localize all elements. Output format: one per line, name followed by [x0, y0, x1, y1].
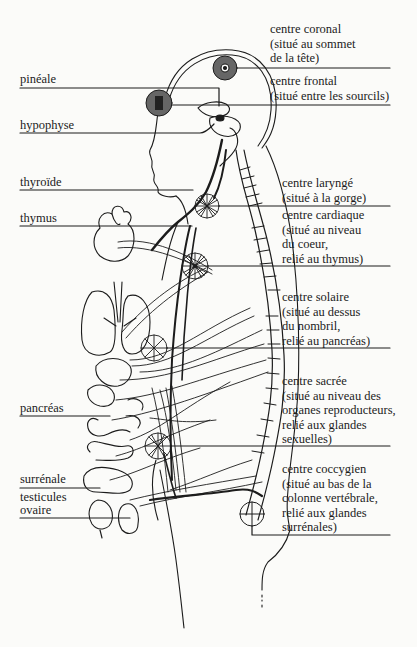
label-thymus: thymus — [20, 211, 57, 226]
label-thyroide: thyroïde — [20, 175, 62, 190]
larynge-chakra-icon — [195, 194, 219, 218]
coccygien-chakra-icon — [240, 502, 264, 526]
frontal-chakra-icon — [146, 90, 172, 116]
label-centre-larynge: centre laryngé (situé à la gorge) — [282, 176, 366, 205]
label-centre-frontal: centre frontal (situé entre les sourcils… — [270, 74, 389, 103]
cardiaque-chakra-icon — [182, 253, 208, 279]
label-centre-coccygien: centre coccygien (situé au bas de la col… — [282, 462, 378, 535]
label-pineale: pinéale — [20, 72, 56, 87]
label-centre-sacree: centre sacrée (situé au niveau des organ… — [282, 374, 396, 447]
label-centre-cardiaque: centre cardiaque (situé au niveau du coe… — [282, 208, 364, 266]
label-centre-solaire: centre solaire (situé au dessus du nombr… — [282, 290, 370, 348]
label-ovaire: ovaire — [20, 503, 51, 518]
chakra-diagram: pinéale hypophyse thyroïde thymus pancré… — [0, 0, 417, 647]
label-centre-coronal: centre coronal (situé au sommet de la tê… — [270, 22, 355, 66]
label-hypophyse: hypophyse — [20, 118, 74, 133]
label-pancreas: pancréas — [20, 401, 64, 416]
label-surrenale: surrénale — [20, 472, 66, 487]
solaire-chakra-icon — [141, 335, 167, 361]
sacree-chakra-icon — [145, 433, 171, 459]
coronal-chakra-icon — [213, 56, 237, 80]
